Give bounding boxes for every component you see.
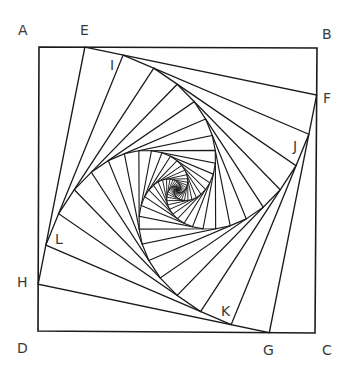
label-D: D [17,341,28,355]
label-C: C [322,343,332,357]
label-H: H [17,275,28,289]
label-B: B [322,27,332,41]
nested-squares [38,47,317,333]
label-K: K [221,304,230,318]
label-I: I [110,58,114,72]
label-E: E [80,23,89,37]
label-A: A [18,23,28,37]
label-L: L [55,232,63,246]
label-F: F [323,91,331,105]
spiral-diagram [0,0,355,373]
label-J: J [293,139,297,153]
label-G: G [263,343,274,357]
